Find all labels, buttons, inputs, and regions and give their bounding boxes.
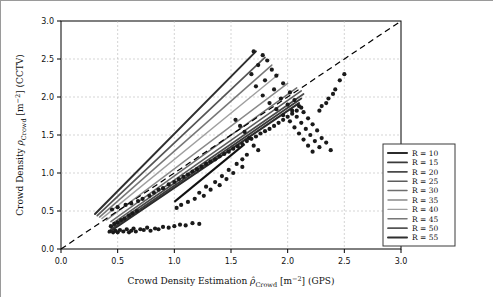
data-point <box>233 118 237 122</box>
data-point <box>317 109 321 113</box>
data-point <box>301 137 305 141</box>
data-point <box>254 84 258 88</box>
data-point <box>261 53 265 57</box>
legend-label: R = 25 <box>412 177 438 186</box>
data-point <box>297 104 301 108</box>
data-point <box>148 229 152 233</box>
data-point <box>320 136 324 140</box>
data-point <box>272 87 276 91</box>
data-point <box>209 188 213 192</box>
y-tick-label: 1.0 <box>41 169 54 178</box>
y-title-units: [m <box>15 103 25 116</box>
data-point <box>295 109 299 113</box>
legend-label: R = 10 <box>412 149 438 158</box>
data-point <box>202 194 206 198</box>
x-title-sub: Crowd <box>255 281 277 289</box>
data-point <box>199 165 203 169</box>
y-title-main: Crowd Density <box>15 147 25 215</box>
data-point <box>167 182 171 186</box>
data-point <box>190 169 194 173</box>
data-point <box>177 177 181 181</box>
data-point <box>281 113 285 117</box>
x-tick-label: 3.0 <box>395 257 408 266</box>
data-point <box>299 121 303 125</box>
data-point <box>288 90 292 94</box>
x-tick-label: 2.5 <box>338 257 351 266</box>
y-tick-label: 2.5 <box>41 55 54 64</box>
data-point <box>286 103 290 107</box>
legend-label: R = 30 <box>412 186 438 195</box>
data-point <box>306 116 310 120</box>
data-point <box>338 78 342 82</box>
data-point <box>256 148 260 152</box>
data-point <box>136 199 140 203</box>
y-title-sub: Crowd <box>20 118 28 140</box>
data-point <box>292 98 296 102</box>
y-tick-label: 0.5 <box>41 207 54 216</box>
data-point <box>342 72 346 76</box>
legend[interactable]: R = 10R = 15R = 20R = 25R = 30R = 35R = … <box>383 144 455 246</box>
data-point <box>209 160 213 164</box>
data-point <box>184 223 188 227</box>
legend-label: R = 20 <box>412 168 438 177</box>
x-title-units: [m <box>280 276 293 286</box>
data-point <box>331 92 335 96</box>
data-point <box>141 197 145 201</box>
data-point <box>249 72 253 76</box>
x-tick-label: 1.5 <box>225 257 238 266</box>
data-point <box>236 144 240 148</box>
x-title-tail: ] (GPS) <box>302 276 335 286</box>
data-point <box>197 191 201 195</box>
scatter-chart: 0.00.51.01.52.02.53.0 0.00.51.01.52.02.5… <box>1 1 493 297</box>
data-point <box>306 144 310 148</box>
data-point <box>235 162 239 166</box>
data-point <box>313 139 317 143</box>
data-point <box>134 229 138 233</box>
data-point <box>218 183 222 187</box>
data-point <box>333 87 337 91</box>
data-point <box>247 136 251 140</box>
data-point <box>267 101 271 105</box>
legend-label: R = 15 <box>412 158 438 167</box>
data-point <box>186 200 190 204</box>
x-title-exp: −2 <box>292 275 302 283</box>
data-point <box>122 217 126 221</box>
data-point <box>218 154 222 158</box>
x-tick-label: 0.5 <box>111 257 124 266</box>
data-point <box>197 222 201 226</box>
y-title-exp: −2 <box>14 94 22 104</box>
data-point <box>304 127 308 131</box>
data-point <box>326 96 330 100</box>
data-point <box>178 223 182 227</box>
data-point <box>265 58 269 62</box>
data-point <box>240 157 244 161</box>
legend-label: R = 40 <box>412 205 438 214</box>
data-point <box>172 180 176 184</box>
data-point <box>329 148 333 152</box>
data-point <box>317 145 321 149</box>
data-point <box>258 131 262 135</box>
data-point <box>240 165 244 169</box>
data-point <box>286 115 290 119</box>
data-point <box>279 96 283 100</box>
data-point <box>116 205 120 209</box>
data-point <box>320 104 324 108</box>
data-point <box>263 78 267 82</box>
data-point <box>227 168 231 172</box>
legend-label: R = 35 <box>412 196 438 205</box>
y-tick-label: 1.5 <box>41 131 54 140</box>
y-tick-label: 0.0 <box>41 245 54 254</box>
y-tick-label: 2.0 <box>41 93 54 102</box>
y-title-tail: ] (CCTV) <box>15 54 25 94</box>
data-point <box>172 224 176 228</box>
data-point <box>152 191 156 195</box>
data-point <box>156 188 160 192</box>
data-point <box>110 207 114 211</box>
data-point <box>267 127 271 131</box>
data-point <box>167 226 171 230</box>
data-point <box>213 157 217 161</box>
data-point <box>277 121 281 125</box>
data-point <box>175 206 179 210</box>
data-point <box>130 211 134 215</box>
legend-label: R = 55 <box>412 233 438 242</box>
